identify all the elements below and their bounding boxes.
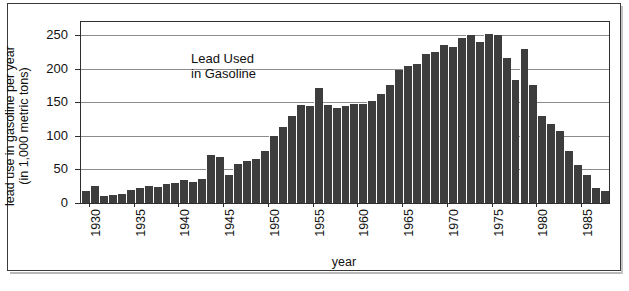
bar (502, 58, 511, 203)
bar (197, 179, 206, 203)
x-axis-tick (581, 203, 582, 207)
x-axis-tick-label: 1965 (402, 209, 416, 237)
x-axis-title: year (80, 255, 608, 269)
bar (537, 116, 546, 203)
bar (314, 88, 323, 203)
bar (341, 106, 350, 203)
bar (555, 131, 564, 203)
gridline (81, 69, 609, 70)
bar (546, 124, 555, 203)
bar (224, 175, 233, 203)
y-axis-tick (75, 69, 80, 70)
x-axis-tick (89, 203, 90, 207)
bar (421, 54, 430, 203)
bar (564, 151, 573, 203)
bar (233, 164, 242, 203)
x-axis-tick-label: 1955 (313, 209, 327, 237)
bar (269, 136, 278, 203)
bar (600, 191, 609, 203)
y-axis-tick-label: 50 (54, 162, 68, 175)
bar (349, 104, 358, 203)
plot-annotation: Lead Used in Gasoline (191, 51, 256, 81)
bar (591, 188, 600, 203)
bar (251, 159, 260, 203)
x-axis-tick (357, 203, 358, 207)
bar (135, 188, 144, 203)
x-axis-tick (178, 203, 179, 207)
y-axis-tick (75, 102, 80, 103)
bar (403, 66, 412, 203)
bar (358, 104, 367, 203)
bar (162, 184, 171, 203)
bar (179, 180, 188, 203)
bar (367, 101, 376, 203)
bar (90, 186, 99, 203)
x-axis-tick (402, 203, 403, 207)
x-axis-tick-label: 1935 (134, 209, 148, 237)
bar (484, 34, 493, 203)
bar (511, 80, 520, 203)
bar (457, 38, 466, 203)
bar (475, 42, 484, 203)
bar (117, 194, 126, 203)
x-axis-tick-label: 1940 (178, 209, 192, 237)
bar-chart: lead use in gasoline per year (in 1,000 … (0, 0, 629, 291)
y-axis-tick-label: 250 (46, 28, 68, 41)
bar (144, 186, 153, 203)
bar (305, 106, 314, 203)
bar (466, 35, 475, 203)
x-axis-tick (492, 203, 493, 207)
bar (528, 85, 537, 203)
y-axis-tick-label: 150 (46, 95, 68, 108)
y-axis-tick-label: 0 (61, 196, 68, 209)
y-axis-tick (75, 169, 80, 170)
gridline (81, 35, 609, 36)
y-axis-tick (75, 35, 80, 36)
plot-annotation-line-2: in Gasoline (191, 66, 256, 81)
bar (81, 191, 90, 203)
bar (493, 35, 502, 203)
bar (287, 116, 296, 203)
plot-annotation-line-1: Lead Used (191, 51, 256, 66)
bar (520, 49, 529, 203)
bar (260, 151, 269, 203)
bar (573, 165, 582, 203)
y-axis-tick-labels: 050100150200250 (0, 0, 76, 291)
bar (332, 108, 341, 203)
bar (153, 187, 162, 203)
x-axis-tick-label: 1930 (89, 209, 103, 237)
bar (215, 157, 224, 203)
x-axis-tick (268, 203, 269, 207)
bar (385, 85, 394, 203)
bar (296, 105, 305, 203)
bar (170, 183, 179, 203)
bar (582, 175, 591, 203)
bar (323, 105, 332, 203)
x-axis-tick (223, 203, 224, 207)
x-axis-tick (313, 203, 314, 207)
bar (108, 195, 117, 203)
bar (412, 64, 421, 203)
y-axis-tick-label: 200 (46, 62, 68, 75)
bar (376, 94, 385, 203)
x-axis-tick-label: 1945 (223, 209, 237, 237)
x-axis-tick-label: 1950 (268, 209, 282, 237)
x-axis-tick-label: 1970 (447, 209, 461, 237)
x-axis-tick (536, 203, 537, 207)
x-axis-tick-label: 1985 (581, 209, 595, 237)
plot-area: Lead Used in Gasoline (80, 21, 610, 204)
x-axis-tick-label: 1980 (536, 209, 550, 237)
bar (448, 47, 457, 203)
bar (126, 190, 135, 203)
x-axis-tick (447, 203, 448, 207)
bar (439, 45, 448, 203)
bar (430, 52, 439, 204)
x-axis-tick-labels: 1930193519401945195019551960196519701975… (80, 203, 608, 251)
bar (99, 196, 108, 203)
bar (188, 182, 197, 203)
bar (394, 70, 403, 203)
bar (206, 155, 215, 203)
bar (242, 161, 251, 203)
y-axis-tick (75, 136, 80, 137)
x-axis-tick-label: 1960 (357, 209, 371, 237)
